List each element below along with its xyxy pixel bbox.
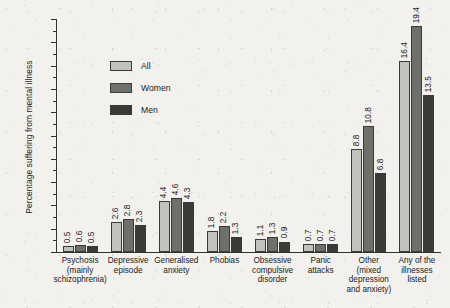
bar-value-label: 0.5 [88,232,96,243]
bar-value-label: 1.1 [256,225,264,236]
bar-all [255,239,266,252]
bar-all [399,61,410,252]
bar-group: 2.62.82.3 [111,19,146,252]
bar-men [135,225,146,252]
bar-series-container: 0.50.60.52.62.82.34.44.64.31.82.21.31.11… [56,19,441,252]
bar-value-label: 4.4 [160,186,168,197]
x-axis-line [56,252,441,253]
bar-value-label: 19.4 [413,7,421,23]
plot-area: 02468101214161820 0.50.60.52.62.82.34.44… [56,19,441,253]
bar-group: 1.11.30.9 [255,19,290,252]
bar-value-label: 10.8 [365,107,373,123]
bar-women [363,126,374,252]
bar-women [411,26,422,252]
bar-group: 16.419.413.5 [399,19,434,252]
bar-value-label: 16.4 [401,42,409,58]
bar-women [75,245,86,252]
bar-value-label: 13.5 [425,76,433,92]
bar-value-label: 0.5 [64,232,72,243]
bar-all [63,246,74,252]
bar-women [267,237,278,252]
bar-all [303,244,314,252]
bar-men [183,202,194,252]
bar-value-label: 1.3 [268,222,276,233]
y-axis-title: Percentage suffering from mental illness [24,12,34,262]
legend-label-men: Men [141,105,158,115]
legend-swatch-women-icon [110,83,132,93]
legend-swatch-men-icon [110,105,132,115]
bar-value-label: 0.6 [76,231,84,242]
bar-value-label: 0.7 [304,229,312,240]
bar-women [315,244,326,252]
bar-value-label: 1.8 [208,217,216,228]
x-axis-label: Any of theillnesseslisted [385,256,449,285]
bar-women [219,226,230,252]
bar-value-label: 8.8 [353,135,361,146]
legend-label-women: Women [141,83,170,93]
chart-legend: All Women Men [110,57,220,123]
bar-men [423,95,434,252]
bar-value-label: 2.6 [112,207,120,218]
bar-value-label: 2.3 [136,211,144,222]
bar-value-label: 0.9 [280,227,288,238]
legend-swatch-all-icon [110,61,132,71]
bar-value-label: 6.8 [377,158,385,169]
bar-all [351,149,362,252]
x-axis-category-labels: Psychosis(mainlyschizophrenia)Depressive… [56,256,441,308]
bar-all [159,201,170,252]
legend-label-all: All [141,61,151,71]
bar-women [171,198,182,252]
bar-men [279,242,290,252]
bar-chart: Percentage suffering from mental illness… [0,0,450,308]
bar-all [111,222,122,252]
bar-men [231,237,242,252]
bar-value-label: 4.3 [184,188,192,199]
legend-item-men: Men [110,101,220,119]
y-tick-major [51,252,56,253]
bar-group: 4.44.64.3 [159,19,194,252]
legend-item-women: Women [110,79,220,97]
bar-value-label: 0.7 [316,229,324,240]
bar-men [375,173,386,252]
bar-value-label: 1.3 [232,222,240,233]
bar-men [87,246,98,252]
bar-women [123,219,134,252]
bar-value-label: 0.7 [328,229,336,240]
bar-value-label: 2.2 [220,212,228,223]
bar-group: 8.810.86.8 [351,19,386,252]
bar-value-label: 4.6 [172,184,180,195]
bar-men [327,244,338,252]
bar-value-label: 2.8 [124,205,132,216]
bar-group: 0.50.60.5 [63,19,98,252]
legend-item-all: All [110,57,220,75]
bar-group: 1.82.21.3 [207,19,242,252]
bar-all [207,231,218,252]
bar-group: 0.70.70.7 [303,19,338,252]
